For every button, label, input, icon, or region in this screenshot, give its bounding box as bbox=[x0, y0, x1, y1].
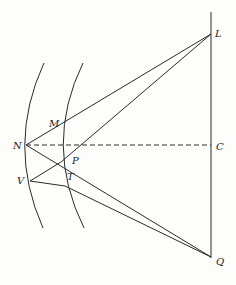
label-L: L bbox=[214, 28, 222, 39]
optics-diagram: L C Q N M P V T bbox=[0, 0, 236, 285]
line-VT bbox=[30, 181, 65, 186]
line-NQ bbox=[26, 145, 211, 257]
label-C: C bbox=[216, 141, 224, 152]
line-LP bbox=[61, 34, 211, 162]
label-M: M bbox=[48, 118, 60, 129]
label-N: N bbox=[12, 140, 23, 151]
label-Q: Q bbox=[216, 256, 224, 267]
label-V: V bbox=[17, 175, 26, 186]
label-T: T bbox=[67, 171, 75, 182]
diagram-canvas: L C Q N M P V T bbox=[0, 0, 236, 285]
line-PV bbox=[30, 162, 61, 181]
label-P: P bbox=[71, 155, 79, 166]
line-TQ bbox=[65, 186, 211, 257]
